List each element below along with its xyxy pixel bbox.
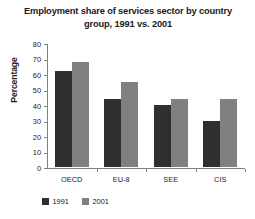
x-tick-label: OECD — [47, 175, 97, 184]
y-tick-label: 80 — [19, 41, 41, 48]
x-tick-label: CIS — [195, 175, 245, 184]
y-axis-line — [47, 44, 48, 169]
y-tick-label: 20 — [19, 134, 41, 141]
bar-see-1991 — [154, 105, 171, 167]
x-tick-label: EU-8 — [96, 175, 146, 184]
y-tick-label: 40 — [19, 103, 41, 110]
legend-swatch-1991 — [42, 198, 49, 205]
x-tick-mark — [97, 169, 98, 172]
bar-oecd-2001 — [72, 62, 89, 167]
y-tick-mark — [44, 137, 47, 138]
chart-container: Employment share of services sector by c… — [0, 0, 255, 219]
legend-label-1991: 1991 — [53, 198, 69, 205]
y-axis-label: Percentage — [9, 45, 19, 115]
y-tick-mark — [44, 60, 47, 61]
x-tick-mark — [196, 169, 197, 172]
bar-see-2001 — [171, 99, 188, 167]
y-tick-label: 30 — [19, 118, 41, 125]
y-tick-label: 60 — [19, 72, 41, 79]
bar-oecd-1991 — [55, 71, 72, 167]
bar-eu-8-2001 — [121, 82, 138, 167]
plot-area: 01020304050607080 OECDEU-8SEECIS — [47, 44, 245, 168]
x-tick-label: SEE — [146, 175, 196, 184]
bar-eu-8-1991 — [104, 99, 121, 167]
legend-item-2001: 2001 — [82, 198, 109, 205]
x-tick-mark — [245, 169, 246, 172]
y-tick-label: 70 — [19, 56, 41, 63]
y-tick-label: 10 — [19, 149, 41, 156]
y-tick-mark — [44, 122, 47, 123]
chart-title-line-2: group, 1991 vs. 2001 — [84, 19, 172, 29]
y-tick-mark — [44, 91, 47, 92]
legend-item-1991: 1991 — [42, 198, 69, 205]
chart-title: Employment share of services sector by c… — [14, 5, 242, 30]
chart-title-line-1: Employment share of services sector by c… — [24, 6, 232, 16]
y-tick-mark — [44, 106, 47, 107]
y-tick-mark — [44, 44, 47, 45]
y-tick-mark — [44, 168, 47, 169]
y-tick-mark — [44, 153, 47, 154]
y-tick-label: 0 — [19, 165, 41, 172]
bar-cis-2001 — [220, 99, 237, 167]
legend-swatch-2001 — [82, 198, 89, 205]
y-tick-label: 50 — [19, 87, 41, 94]
bar-cis-1991 — [203, 121, 220, 168]
chart-legend: 1991 2001 — [42, 198, 109, 205]
legend-label-2001: 2001 — [92, 198, 108, 205]
x-tick-mark — [146, 169, 147, 172]
y-tick-mark — [44, 75, 47, 76]
